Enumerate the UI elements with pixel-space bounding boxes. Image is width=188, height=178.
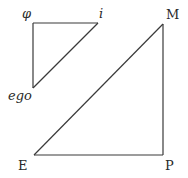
large-triangle bbox=[34, 24, 163, 155]
label-ego: ego bbox=[8, 88, 32, 103]
label-e: E bbox=[18, 158, 28, 173]
label-p: P bbox=[165, 158, 174, 173]
label-m: M bbox=[166, 7, 179, 22]
edge-i-ego bbox=[33, 23, 98, 88]
label-i: i bbox=[99, 6, 103, 21]
schema-diagram: φ i ego M E P bbox=[0, 0, 188, 178]
small-triangle bbox=[33, 23, 98, 88]
edge-e-m bbox=[34, 24, 163, 155]
label-phi: φ bbox=[22, 6, 32, 21]
